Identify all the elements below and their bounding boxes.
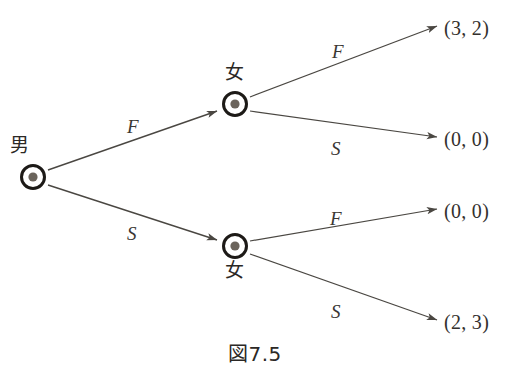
edge-lower-terminal4 xyxy=(250,254,437,320)
player-label-root: 男 xyxy=(10,136,29,155)
decision-node-root[interactable] xyxy=(22,166,45,189)
player-label-lower: 女 xyxy=(225,261,244,280)
edge-label-lower-terminal3: F xyxy=(330,209,342,228)
game-tree-figure: 男 女 女 F S F S F S (3, 2) (0, 0) (0, 0) (… xyxy=(0,0,517,378)
figure-caption: 図7.5 xyxy=(228,344,282,364)
edge-upper-terminal2 xyxy=(250,111,437,137)
decision-node-upper[interactable] xyxy=(224,93,247,116)
edge-label-upper-terminal2: S xyxy=(331,139,341,158)
edge-lower-terminal3 xyxy=(250,209,437,241)
payoff-terminal-4: (2, 3) xyxy=(444,312,489,332)
payoff-terminal-2: (0, 0) xyxy=(444,129,489,149)
edge-label-lower-terminal4: S xyxy=(331,302,341,321)
edge-label-root-lower: S xyxy=(127,224,137,243)
player-label-upper: 女 xyxy=(225,63,244,82)
game-tree-canvas xyxy=(0,0,517,378)
payoff-terminal-1: (3, 2) xyxy=(444,18,489,38)
decision-node-lower[interactable] xyxy=(224,235,247,258)
edge-label-root-upper: F xyxy=(127,117,139,136)
edge-label-upper-terminal1: F xyxy=(332,42,344,61)
payoff-terminal-3: (0, 0) xyxy=(444,201,489,221)
